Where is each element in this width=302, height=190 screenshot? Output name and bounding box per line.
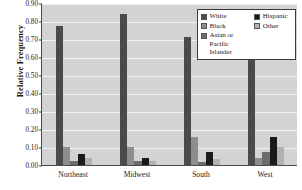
chart-figure: Relative Frequency 0.000.100.200.300.400… bbox=[0, 0, 302, 190]
y-tick-label: 0.50 bbox=[14, 72, 38, 80]
y-tick-label: 0.60 bbox=[14, 54, 38, 62]
bar bbox=[127, 147, 134, 165]
legend-label: Other bbox=[263, 22, 279, 31]
bar bbox=[184, 37, 191, 165]
y-tick-label: 0.80 bbox=[14, 18, 38, 26]
legend-column-left: WhiteBlackAsian or Pacific Islander bbox=[201, 12, 251, 57]
legend-swatch-icon bbox=[201, 23, 207, 29]
legend-swatch-icon bbox=[254, 23, 260, 29]
legend-entry: White bbox=[201, 12, 251, 21]
legend-entry: Black bbox=[201, 22, 251, 31]
bar bbox=[255, 158, 262, 165]
legend-swatch-icon bbox=[254, 14, 260, 20]
y-tick-label: 0.10 bbox=[14, 144, 38, 152]
bar bbox=[142, 158, 149, 165]
bar bbox=[56, 26, 63, 165]
y-tick-label: 0.00 bbox=[14, 162, 38, 170]
y-tick-label: 0.40 bbox=[14, 90, 38, 98]
bar bbox=[262, 152, 269, 166]
bar bbox=[213, 159, 220, 165]
bar bbox=[85, 158, 92, 165]
y-axis-tick-labels: 0.000.100.200.300.400.500.600.700.800.90 bbox=[14, 4, 38, 166]
y-tick-label: 0.30 bbox=[14, 108, 38, 116]
bar bbox=[63, 147, 70, 165]
bar bbox=[149, 161, 156, 166]
x-tick-label: West bbox=[258, 170, 273, 179]
x-axis-tick-labels: NortheastMidwestSouthWest bbox=[41, 168, 297, 184]
y-tick-label: 0.90 bbox=[14, 0, 38, 8]
legend-label: Asian or Pacific Islander bbox=[210, 31, 252, 57]
legend-swatch-icon bbox=[201, 33, 207, 39]
legend-label: Black bbox=[210, 22, 226, 31]
bar bbox=[277, 147, 284, 165]
bar bbox=[198, 162, 205, 165]
y-tick-label: 0.70 bbox=[14, 36, 38, 44]
bar bbox=[248, 50, 255, 165]
bar bbox=[206, 152, 213, 165]
legend-swatch-icon bbox=[201, 14, 207, 20]
legend-column-right: HispanicOther bbox=[254, 12, 292, 57]
x-tick-label: South bbox=[192, 170, 210, 179]
x-tick-label: Northeast bbox=[58, 170, 88, 179]
bar bbox=[270, 137, 277, 165]
chart-legend: WhiteBlackAsian or Pacific Islander Hisp… bbox=[197, 9, 296, 60]
x-tick-label: Midwest bbox=[124, 170, 151, 179]
bar bbox=[191, 137, 198, 165]
bar bbox=[70, 161, 77, 165]
legend-entry: Hispanic bbox=[254, 12, 292, 21]
legend-entry: Asian or Pacific Islander bbox=[201, 31, 251, 57]
bar bbox=[134, 161, 141, 165]
bar bbox=[78, 154, 85, 165]
legend-label: Hispanic bbox=[263, 12, 288, 21]
y-tick-label: 0.20 bbox=[14, 126, 38, 134]
bar bbox=[120, 14, 127, 165]
legend-label: White bbox=[210, 12, 227, 21]
legend-entry: Other bbox=[254, 22, 292, 31]
